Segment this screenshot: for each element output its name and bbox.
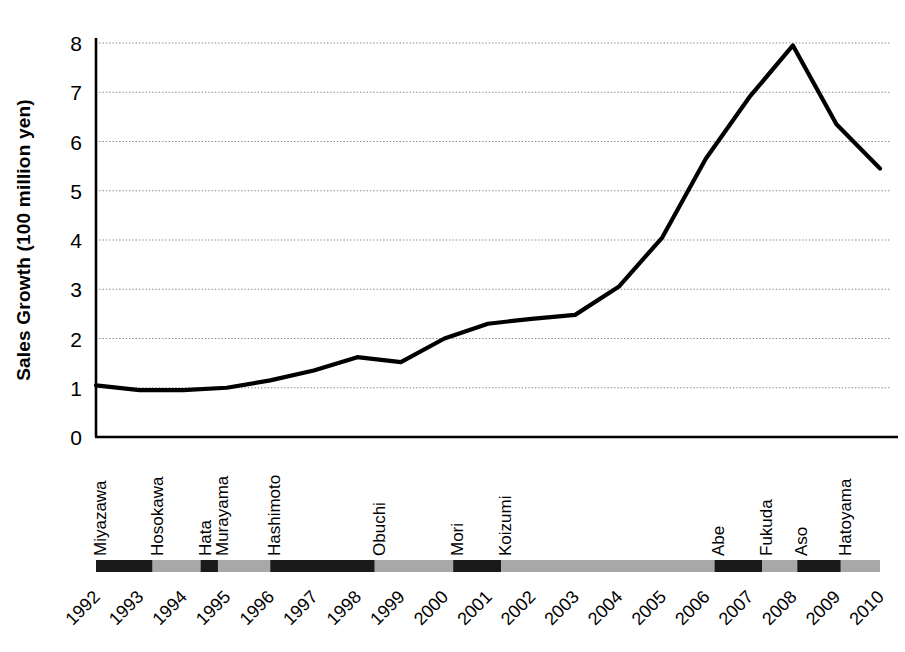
chart-figure: 012345678 MiyazawaHosokawaHataMurayamaHa… (0, 0, 905, 652)
y-tick-label: 5 (70, 180, 82, 203)
y-tick-label: 2 (70, 328, 82, 351)
line-chart: 012345678 MiyazawaHosokawaHataMurayamaHa… (0, 0, 905, 652)
prime-minister-timeline-bar (96, 560, 880, 572)
timeline-segment-murayama (218, 560, 270, 572)
timeline-segment-koizumi (501, 560, 714, 572)
pm-label-hosokawa: Hosokawa (148, 476, 167, 556)
pm-label-obuchi: Obuchi (370, 502, 389, 556)
y-tick-label: 0 (70, 426, 82, 449)
y-axis-title: Sales Growth (100 million yen) (13, 99, 34, 381)
y-tick-label: 6 (70, 131, 82, 154)
pm-label-mori: Mori (448, 523, 467, 556)
timeline-segment-miyazawa (96, 560, 153, 572)
y-tick-label: 1 (70, 377, 82, 400)
timeline-segment-abe (714, 560, 762, 572)
timeline-segment-fukuda (762, 560, 797, 572)
pm-label-aso: Aso (792, 527, 811, 556)
timeline-segment-aso (797, 560, 841, 572)
timeline-segment-hatoyama (841, 560, 880, 572)
timeline-segment-obuchi (375, 560, 453, 572)
y-axis-title-text: Sales Growth (100 million yen) (13, 99, 34, 381)
pm-label-hashimoto: Hashimoto (265, 475, 284, 556)
y-tick-label: 4 (70, 229, 82, 252)
y-axis-ticks: 012345678 (70, 32, 82, 449)
timeline-segment-hata (201, 560, 218, 572)
pm-label-murayama: Murayama (213, 475, 232, 556)
pm-label-hata: Hata (196, 520, 215, 556)
timeline-segment-hosokawa (153, 560, 201, 572)
y-tick-label: 3 (70, 278, 82, 301)
pm-label-koizumi: Koizumi (496, 496, 515, 556)
timeline-segment-hashimoto (270, 560, 375, 572)
y-tick-label: 8 (70, 32, 82, 55)
pm-label-miyazawa: Miyazawa (91, 480, 110, 556)
pm-label-fukuda: Fukuda (757, 499, 776, 556)
pm-label-hatoyama: Hatoyama (836, 478, 855, 556)
pm-label-abe: Abe (709, 526, 728, 556)
y-tick-label: 7 (70, 81, 82, 104)
timeline-segment-mori (453, 560, 501, 572)
